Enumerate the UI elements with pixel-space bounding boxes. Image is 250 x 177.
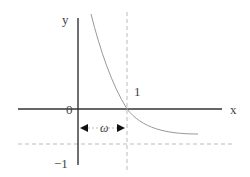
omega-label: ω: [100, 121, 108, 135]
function-diagram: y x 0 1 −1 ω: [0, 0, 250, 177]
x-axis-label: x: [230, 102, 237, 117]
right-arrow-icon: [117, 124, 125, 132]
x-tick-one-label: 1: [134, 84, 141, 99]
left-arrow-icon: [80, 124, 88, 132]
y-axis-label: y: [62, 12, 69, 27]
y-tick-minus-one-label: −1: [54, 156, 68, 171]
function-curve: [91, 14, 198, 134]
origin-label: 0: [66, 102, 73, 117]
